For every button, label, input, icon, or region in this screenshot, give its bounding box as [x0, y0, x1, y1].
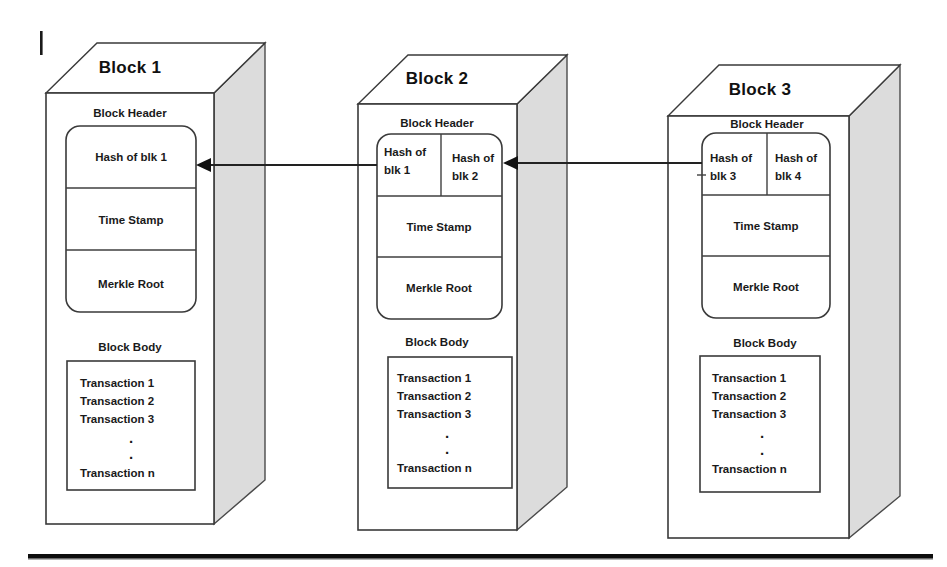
block-3-hash-cell-1-line-0: Hash of: [775, 152, 817, 164]
block-2-hash-cell-1-line-1: blk 2: [452, 170, 478, 182]
bottom-divider-rule: [28, 554, 933, 559]
block-3: Block 3 Block Header Hash of blk 3 Hash …: [668, 65, 900, 538]
block-3-ellipsis-dot-0: .: [760, 424, 764, 441]
block-3-transaction-1: Transaction 2: [712, 390, 786, 402]
block-1-transaction-1: Transaction 2: [80, 395, 154, 407]
block-3-ellipsis-dot-1: .: [760, 441, 764, 458]
block-3-hash-cell-1-line-1: blk 4: [775, 170, 802, 182]
block-1-body-label: Block Body: [98, 341, 162, 353]
block-2-body-label: Block Body: [405, 336, 469, 348]
text-cursor-mark: [40, 31, 43, 55]
block-2-merkle-root: Merkle Root: [406, 282, 472, 294]
block-2-transaction-3: Transaction n: [397, 462, 472, 474]
block-1-ellipsis-dot-0: .: [129, 429, 133, 446]
block-3-transaction-2: Transaction 3: [712, 408, 786, 420]
block-2-hash-cell-1-line-0: Hash of: [452, 152, 494, 164]
blockchain-diagram: Block 1 Block Header Hash of blk 1 Time …: [0, 0, 947, 567]
block-2: Block 2 Block Header Hash of blk 1 Hash …: [358, 55, 567, 530]
block-3-hash-cell-0-line-1: blk 3: [710, 170, 736, 182]
block-2-transaction-2: Transaction 3: [397, 408, 471, 420]
block-1-header-label: Block Header: [93, 107, 167, 119]
block-3-transaction-0: Transaction 1: [712, 372, 787, 384]
block-1-ellipsis-dot-1: .: [129, 445, 133, 462]
block-2-transaction-1: Transaction 2: [397, 390, 471, 402]
block-3-transaction-3: Transaction n: [712, 463, 787, 475]
diagram-canvas: Block 1 Block Header Hash of blk 1 Time …: [0, 0, 947, 567]
block-1-hash-cell-0: Hash of blk 1: [95, 151, 167, 163]
block-3-body-label: Block Body: [733, 337, 797, 349]
block-2-hash-cell-0-line-1: blk 1: [384, 164, 411, 176]
block-2-ellipsis-dot-1: .: [445, 440, 449, 457]
block-1-merkle-root: Merkle Root: [98, 278, 164, 290]
bottom-divider-rule-shadow: [28, 559, 933, 560]
block-1-transaction-3: Transaction n: [80, 467, 155, 479]
block-1-transaction-0: Transaction 1: [80, 377, 155, 389]
block-2-hash-cell-0-line-0: Hash of: [384, 146, 426, 158]
block-3-side-face: [849, 65, 900, 538]
block-1-time-stamp: Time Stamp: [99, 214, 164, 226]
block-3-merkle-root: Merkle Root: [733, 281, 799, 293]
block-2-title: Block 2: [406, 69, 469, 88]
block-3-header-label: Block Header: [730, 118, 804, 130]
block-3-time-stamp: Time Stamp: [734, 220, 799, 232]
block-1-title: Block 1: [99, 58, 162, 77]
block-1-side-face: [214, 43, 265, 524]
block-3-hash-cell-0-line-0: Hash of: [710, 152, 752, 164]
block-1-transaction-2: Transaction 3: [80, 413, 154, 425]
block-2-header-label: Block Header: [400, 117, 474, 129]
block-2-transaction-0: Transaction 1: [397, 372, 472, 384]
block-2-ellipsis-dot-0: .: [445, 424, 449, 441]
block-3-title: Block 3: [729, 80, 792, 99]
block-2-time-stamp: Time Stamp: [407, 221, 472, 233]
block-2-side-face: [517, 55, 567, 530]
block-1: Block 1 Block Header Hash of blk 1 Time …: [46, 43, 265, 524]
